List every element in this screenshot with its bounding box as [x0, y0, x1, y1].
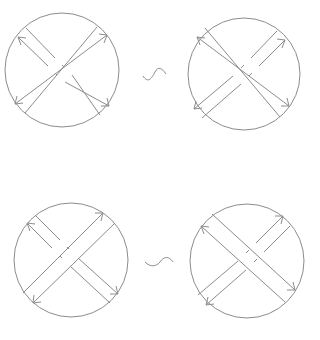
diagram-bottom-left	[14, 203, 128, 317]
under-strand-1-dash	[241, 65, 244, 68]
tangle-diagram-figure	[0, 0, 320, 340]
over-strand-2	[33, 223, 115, 303]
disk-boundary	[14, 203, 128, 317]
under-strand-2a	[27, 223, 52, 248]
over-strand-1	[23, 213, 103, 293]
over-strand-2	[197, 37, 289, 106]
over-strand-2	[201, 226, 285, 302]
equivalence-tilde-icon	[143, 68, 166, 79]
under-strand-1-dash	[246, 250, 249, 253]
under-strand-2-dash	[249, 73, 252, 76]
under-strand-1b	[78, 258, 118, 294]
under-strand-2b	[65, 82, 109, 106]
diagram-top-right	[188, 18, 300, 130]
equivalence-tilde-icon	[145, 258, 173, 266]
under-strand-1a	[35, 215, 60, 240]
under-strand-2-dash	[254, 259, 257, 262]
under-strand-2a	[259, 40, 285, 66]
under-strand-1b	[72, 75, 100, 115]
over-strand-1	[212, 214, 295, 290]
over-strand-1	[205, 28, 280, 117]
under-strand-2b	[202, 84, 241, 118]
under-strand-1b	[198, 261, 238, 295]
under-strand-2a	[264, 226, 290, 252]
over-strand-2	[15, 35, 107, 104]
under-strand-1a	[256, 216, 283, 243]
under-strand-1-dash	[62, 65, 64, 67]
under-strand-2b	[70, 266, 110, 303]
under-strand-2a	[18, 37, 48, 66]
under-strand-1b	[194, 76, 233, 109]
under-strand-1a	[26, 28, 55, 58]
disk-boundary	[5, 13, 119, 127]
under-strand-2b	[206, 270, 246, 305]
under-strand-1a	[251, 31, 277, 58]
diagram-top-left	[5, 13, 119, 127]
under-strand-2-dash	[60, 256, 62, 258]
diagram-bottom-right	[190, 204, 304, 318]
